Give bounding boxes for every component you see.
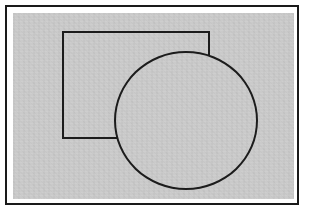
circle-shape	[114, 51, 258, 190]
page-background	[0, 0, 310, 213]
